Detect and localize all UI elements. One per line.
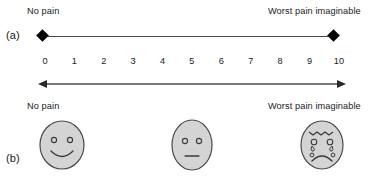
nrs-number: 10 (332, 56, 346, 66)
happy-face-icon (36, 117, 88, 173)
nrs-number: 6 (214, 56, 228, 66)
face-cell-worst-pain (293, 117, 351, 173)
nrs-number: 2 (97, 56, 111, 66)
faces-pain-scale-row (33, 117, 351, 173)
crying-face-icon (296, 117, 348, 173)
panel-label-b: (b) (6, 152, 20, 164)
diamond-marker-icon (327, 29, 340, 42)
nrs-number-row: 0 1 2 3 4 5 6 7 8 9 10 (38, 56, 346, 66)
nrs-number: 1 (67, 56, 81, 66)
panel-label-a: (a) (6, 29, 20, 41)
nrs-number: 5 (185, 56, 199, 66)
face-cell-no-pain (33, 117, 91, 173)
pain-scale-figure: No pain Worst pain imaginable (a) 0 1 2 … (0, 0, 384, 180)
face-cell-moderate-pain (163, 117, 221, 173)
vas-right-anchor-label: Worst pain imaginable (268, 6, 361, 16)
neutral-face-icon (166, 117, 218, 173)
nrs-number: 3 (126, 56, 140, 66)
nrs-number: 7 (244, 56, 258, 66)
faces-right-anchor-label: Worst pain imaginable (268, 101, 361, 111)
double-headed-arrow-icon (38, 77, 346, 95)
diamond-marker-icon (36, 29, 49, 42)
vas-left-anchor-label: No pain (27, 6, 59, 16)
vas-line (46, 36, 334, 37)
nrs-number: 4 (156, 56, 170, 66)
faces-left-anchor-label: No pain (27, 101, 59, 111)
nrs-number: 0 (38, 56, 52, 66)
nrs-number: 8 (273, 56, 287, 66)
nrs-number: 9 (303, 56, 317, 66)
